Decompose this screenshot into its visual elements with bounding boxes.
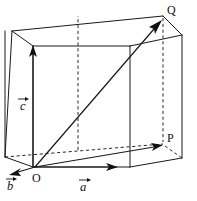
hidden-edges-group: [5, 16, 182, 158]
diagonal-oq-group: [35, 20, 162, 167]
point-label-O: O: [32, 171, 41, 185]
vector-c-group: [29, 45, 37, 167]
edge-top-front-right-slant: [130, 35, 182, 46]
vector-a-group: [35, 163, 118, 171]
vector-label-c-group: c: [18, 97, 29, 113]
geometry-figure: O P Q a b c: [0, 0, 197, 201]
vector-label-a: a: [80, 180, 86, 194]
edge-back-left-vertical-true: [5, 31, 12, 157]
point-label-P: P: [167, 131, 174, 145]
vector-label-b-group: b: [6, 177, 17, 193]
segment-op-group: [35, 143, 163, 167]
diagonal-oq-line: [35, 29, 154, 167]
vector-label-b-accent-head: [13, 177, 17, 181]
edge-p-to-right-bottom: [165, 146, 182, 158]
parallelepiped-diagram: O P Q a b c: [0, 0, 197, 201]
edge-back-bottom: [5, 144, 163, 157]
point-label-Q: Q: [167, 3, 176, 17]
vector-label-b: b: [7, 179, 13, 193]
vector-label-a-accent-head: [87, 178, 91, 182]
edge-bottom-front-right-slant: [130, 158, 182, 167]
edge-bottom-left-slant: [5, 157, 33, 167]
edge-top-back: [12, 16, 163, 31]
vector-label-c-accent-head: [25, 97, 29, 101]
vector-label-a-group: a: [79, 178, 91, 194]
edge-top-left-slant: [12, 31, 33, 46]
vector-label-c: c: [20, 99, 26, 113]
edge-top-right-slant: [163, 16, 182, 35]
